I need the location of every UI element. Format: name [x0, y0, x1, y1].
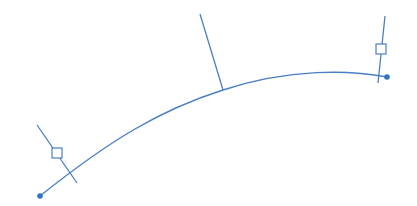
- start-point[interactable]: [37, 193, 43, 199]
- main-curve[interactable]: [40, 72, 387, 196]
- end-point[interactable]: [384, 74, 390, 80]
- right-square-handle[interactable]: [376, 44, 386, 54]
- left-square-handle[interactable]: [52, 148, 62, 158]
- curve-diagram: [0, 0, 417, 206]
- center-normal-line: [200, 14, 223, 90]
- diagram-canvas: [0, 0, 417, 206]
